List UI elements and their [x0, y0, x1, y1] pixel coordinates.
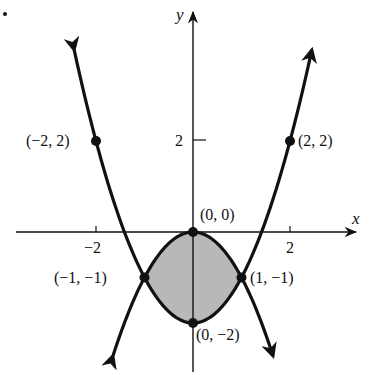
x-axis-label: x: [351, 209, 360, 228]
point-label-neg1-neg1: (−1, −1): [54, 269, 107, 287]
point-label-0-neg2: (0, −2): [196, 326, 240, 344]
tick-label-x-2: 2: [286, 239, 294, 256]
tick-label-x-neg2: −2: [84, 239, 101, 256]
data-point: [91, 136, 101, 146]
point-label-0-0: (0, 0): [200, 206, 235, 224]
plot-area: y x −2 2 2 (−2, 2) (2, 2) (0, 0) (−1, −1…: [0, 0, 371, 375]
point-label-1-neg1: (1, −1): [250, 269, 294, 287]
data-point: [237, 273, 247, 283]
data-point: [188, 227, 198, 237]
tick-label-y-2: 2: [175, 132, 183, 149]
data-point: [140, 273, 150, 283]
corner-dot: [3, 12, 7, 16]
data-point: [285, 136, 295, 146]
point-label-neg2-2: (−2, 2): [26, 132, 70, 150]
point-label-2-2: (2, 2): [298, 132, 333, 150]
y-axis-label: y: [174, 5, 184, 24]
